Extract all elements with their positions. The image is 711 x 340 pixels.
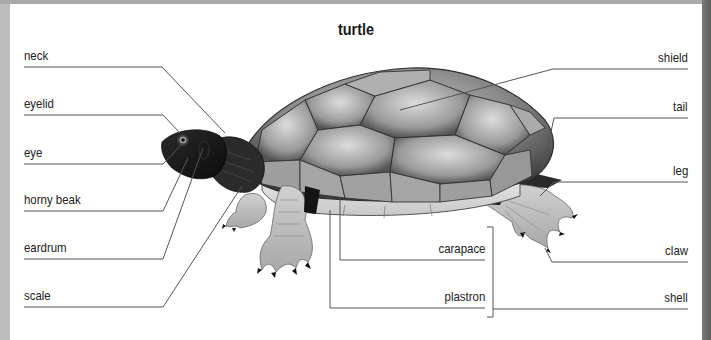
front-leg xyxy=(257,186,320,278)
label-leg: leg xyxy=(673,163,688,178)
label-eyelid: eyelid xyxy=(24,96,54,111)
turtle-illustration xyxy=(10,4,702,340)
carapace-shape xyxy=(240,68,553,202)
left-foreleg xyxy=(222,194,266,232)
label-carapace: carapace xyxy=(438,241,485,256)
label-tail: tail xyxy=(673,99,688,114)
diagram-panel: turtle xyxy=(10,4,702,340)
head xyxy=(161,130,226,179)
label-horny-beak: horny beak xyxy=(24,192,81,207)
label-neck: neck xyxy=(24,48,48,63)
frame-right-edge xyxy=(702,0,711,340)
label-claw: claw xyxy=(665,243,688,258)
label-eye: eye xyxy=(24,145,42,160)
label-shield: shield xyxy=(658,50,688,65)
label-shell: shell xyxy=(664,290,688,305)
label-plastron: plastron xyxy=(444,289,485,304)
label-scale: scale xyxy=(24,288,51,303)
label-eardrum: eardrum xyxy=(24,240,67,255)
